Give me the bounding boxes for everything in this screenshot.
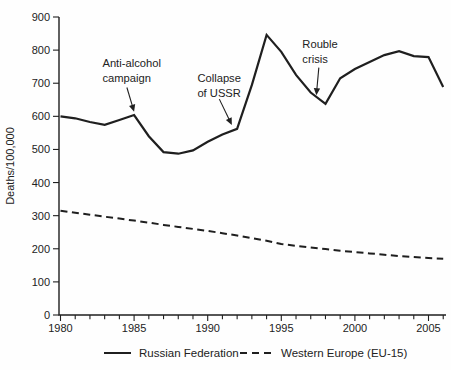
legend-label-western-europe: Western Europe (EU-15) xyxy=(281,347,407,359)
annotation-collapse-of-ussr-arrow xyxy=(219,99,229,120)
x-tick-label: 1980 xyxy=(48,322,72,334)
solid-line-swatch xyxy=(104,352,131,354)
russian-federation-line xyxy=(61,35,444,154)
x-tick-label: 1990 xyxy=(195,322,219,334)
annotation-anti-alcohol-campaign-arrowhead xyxy=(129,104,135,112)
y-tick-label: 500 xyxy=(32,143,50,155)
x-tick-label: 2000 xyxy=(343,322,367,334)
annotation-rouble-crisis-arrow xyxy=(317,68,319,91)
x-tick-label: 1985 xyxy=(122,322,146,334)
y-tick-label: 700 xyxy=(32,77,50,89)
y-tick-label: 800 xyxy=(32,44,50,56)
dashed-line-swatch xyxy=(240,352,273,354)
y-axis-title: Deaths/100,000 xyxy=(4,127,16,205)
legend-label-russian-federation: Russian Federation xyxy=(139,347,239,359)
chart-canvas: Deaths/100,000 0100200300400500600700800… xyxy=(0,0,451,342)
y-tick-label: 400 xyxy=(32,177,50,189)
legend-item-russian-federation: Russian Federation xyxy=(104,344,239,362)
western-europe-eu-15--line xyxy=(61,211,444,259)
annotation-anti-alcohol-campaign-arrow xyxy=(127,88,133,107)
legend: Russian Federation Western Europe (EU-15… xyxy=(0,344,451,364)
mortality-comparison-figure: Deaths/100,000 0100200300400500600700800… xyxy=(0,0,451,370)
y-tick-label: 900 xyxy=(32,11,50,23)
y-tick-label: 300 xyxy=(32,210,50,222)
annotation-rouble-crisis-arrowhead xyxy=(314,88,320,95)
y-tick-label: 600 xyxy=(32,110,50,122)
annotation-rouble-crisis-label: Roublecrisis xyxy=(302,38,337,65)
legend-item-western-europe: Western Europe (EU-15) xyxy=(240,344,407,362)
x-tick-label: 2005 xyxy=(416,322,440,334)
annotation-collapse-of-ussr-label: Collapseof USSR xyxy=(197,72,241,99)
annotation-anti-alcohol-campaign-label: Anti-alcoholcampaign xyxy=(102,57,160,84)
y-tick-label: 100 xyxy=(32,276,50,288)
x-tick-label: 1995 xyxy=(269,322,293,334)
y-tick-label: 200 xyxy=(32,243,50,255)
y-tick-label: 0 xyxy=(44,309,50,321)
